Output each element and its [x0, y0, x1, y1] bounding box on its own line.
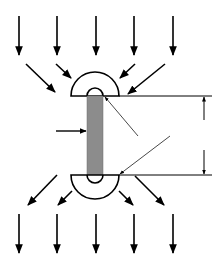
diverge-arrow-far-right — [135, 176, 164, 205]
top-incoming-arrows — [19, 16, 173, 55]
converge-arrow-near-right — [120, 64, 135, 78]
leader-lines — [105, 97, 170, 174]
converge-arrow-far-right — [128, 64, 165, 94]
converge-arrow-far-left — [26, 64, 55, 92]
rod — [87, 96, 103, 175]
leader-line-top-notch — [105, 97, 138, 136]
rod-flow-diagram — [0, 0, 222, 263]
converge-arrow-near-left — [56, 64, 71, 78]
reference-lines — [119, 96, 212, 175]
leader-line-bottom-cap-edge — [120, 136, 170, 174]
bottom-outgoing-arrows — [19, 214, 173, 253]
diverge-arrow-far-left — [28, 175, 57, 205]
diverge-arrow-near-right — [119, 191, 133, 205]
bottom-cap — [71, 175, 119, 199]
diverge-arrow-near-left — [58, 191, 72, 205]
top-cap — [71, 72, 119, 96]
